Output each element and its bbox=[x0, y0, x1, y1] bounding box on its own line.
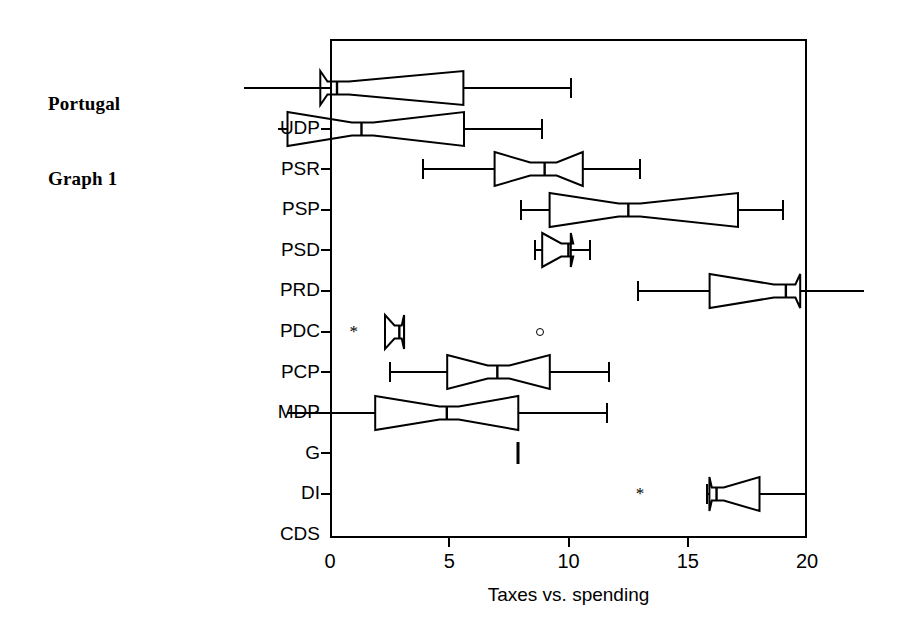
single-observation-marker bbox=[517, 442, 520, 464]
x-tick-15 bbox=[687, 538, 689, 547]
chart-page: Portugal Graph 1 UDPPSRPSPPSDPRDPDCPCPMD… bbox=[0, 0, 908, 636]
x-tick-label-0: 0 bbox=[324, 551, 335, 571]
boxplot-marks-layer: ** bbox=[330, 39, 807, 538]
category-label-psd: PSD bbox=[281, 239, 320, 258]
category-tick-pdc bbox=[321, 290, 330, 292]
category-tick-prd bbox=[321, 249, 330, 251]
x-tick-5 bbox=[448, 538, 450, 547]
x-tick-label-15: 15 bbox=[677, 551, 699, 571]
x-tick-label-10: 10 bbox=[557, 551, 579, 571]
category-label-pdc: PDC bbox=[280, 321, 320, 340]
x-tick-label-20: 20 bbox=[796, 551, 818, 571]
notched-box bbox=[247, 356, 687, 470]
x-tick-10 bbox=[568, 538, 570, 547]
category-label-prd: PRD bbox=[280, 280, 320, 299]
x-tick-label-5: 5 bbox=[444, 551, 455, 571]
boxplot-plot-area: ** 05101520 bbox=[330, 39, 807, 538]
category-tick-psd bbox=[321, 209, 330, 211]
category-tick-cds bbox=[321, 493, 330, 495]
category-tick-pcp bbox=[321, 331, 330, 333]
category-label-di: DI bbox=[301, 483, 320, 502]
x-axis-title: Taxes vs. spending bbox=[330, 584, 807, 606]
category-label-psp: PSP bbox=[282, 199, 320, 218]
category-label-cds: CDS bbox=[280, 524, 320, 543]
notched-box bbox=[667, 437, 887, 551]
outlier-star-marker: * bbox=[636, 489, 645, 499]
